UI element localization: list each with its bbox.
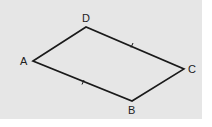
- vertex-label-b: B: [128, 104, 135, 116]
- vertex-label-c: C: [188, 63, 196, 75]
- parallelogram-abcd: [33, 27, 184, 101]
- vertex-label-d: D: [82, 12, 90, 24]
- vertex-label-a: A: [20, 55, 28, 67]
- parallelogram-diagram: A D C B: [0, 0, 212, 127]
